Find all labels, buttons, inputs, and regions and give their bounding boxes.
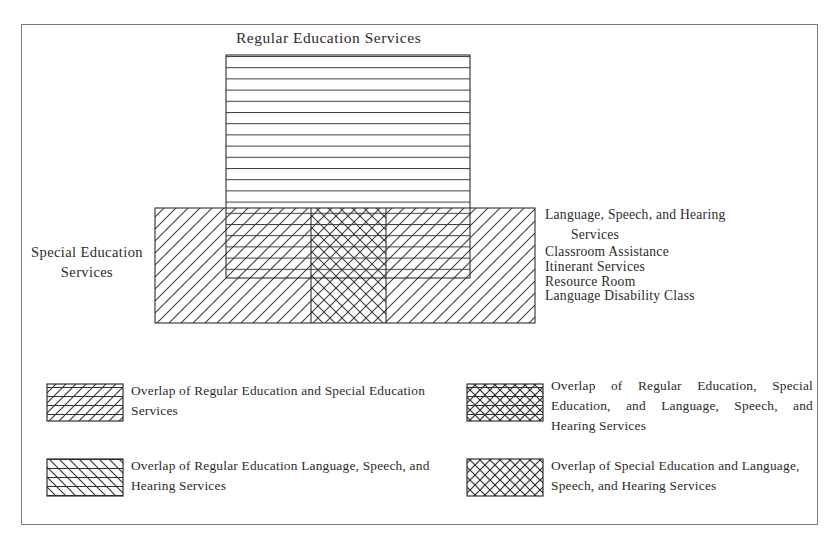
service-label: Language, Speech, and Hearing [545, 207, 726, 222]
list-item: Classroom Assistance [545, 245, 815, 259]
service-label: Classroom Assistance [545, 244, 669, 259]
label-special-education: Special Education Services [24, 243, 150, 282]
service-label: Itinerant Services [545, 259, 645, 274]
list-item: Language, Speech, and Hearing Services [545, 205, 815, 244]
list-item: Language Disability Class [545, 289, 815, 303]
service-label: Resource Room [545, 274, 635, 289]
figure-canvas: Regular Education Services Special Educa… [0, 0, 839, 549]
legend-label-overlap-special-lsh: Overlap of Special Education and Languag… [551, 456, 821, 496]
label-special-education-line2: Services [61, 264, 113, 280]
label-special-education-line1: Special Education [31, 244, 143, 260]
legend-label-overlap-regular-special-lsh: Overlap of Regular Education, Special Ed… [551, 376, 813, 436]
legend-label-overlap-regular-lsh: Overlap of Regular Education Language, S… [131, 456, 451, 496]
list-item: Resource Room [545, 275, 815, 289]
services-list: Language, Speech, and Hearing Services C… [545, 205, 815, 304]
legend-label-overlap-regular-special: Overlap of Regular Education and Special… [131, 381, 441, 421]
service-label-continued: Services [545, 225, 815, 245]
service-label: Language Disability Class [545, 288, 695, 303]
title-regular-education: Regular Education Services [236, 30, 421, 46]
list-item: Itinerant Services [545, 260, 815, 274]
